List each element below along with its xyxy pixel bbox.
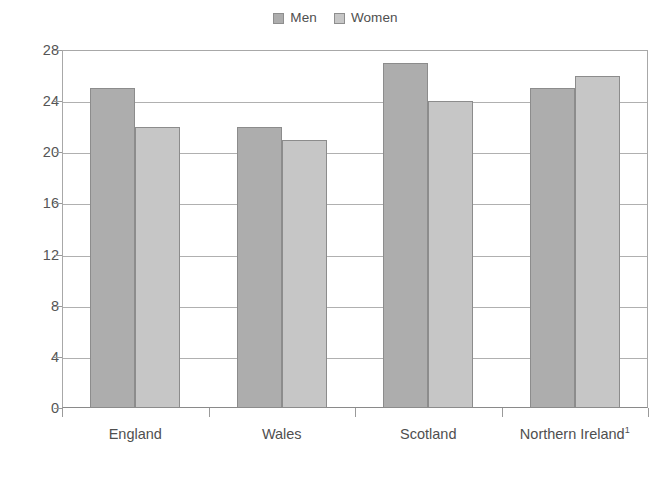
bar-men-scotland: [383, 63, 428, 408]
x-category-footnote-mark: 1: [625, 425, 630, 435]
x-category-label-england: England: [62, 427, 209, 442]
x-tick-mark-3: [502, 408, 503, 417]
y-tick-label-8: 8: [13, 298, 59, 313]
bar-women-england: [135, 127, 180, 408]
y-tick-mark-24: [54, 101, 62, 102]
bar-men-wales: [237, 127, 282, 408]
legend-label-men: Men: [290, 11, 317, 25]
bar-women-northern-ireland: [575, 76, 620, 408]
legend-swatch-men: [273, 13, 284, 24]
y-tick-label-12: 12: [13, 247, 59, 262]
y-tick-label-4: 4: [13, 350, 59, 365]
y-tick-mark-16: [54, 203, 62, 204]
x-category-label-scotland: Scotland: [355, 427, 502, 442]
x-tick-mark-1: [209, 408, 210, 417]
bar-women-wales: [282, 140, 327, 409]
y-tick-mark-28: [54, 50, 62, 51]
legend-label-women: Women: [351, 11, 398, 25]
legend-item-women: Women: [334, 11, 398, 25]
bar-women-scotland: [428, 101, 473, 408]
x-category-label-northern-ireland: Northern Ireland1: [502, 427, 649, 442]
x-tick-mark-2: [355, 408, 356, 417]
y-tick-mark-12: [54, 255, 62, 256]
y-tick-mark-0: [54, 408, 62, 409]
y-tick-label-24: 24: [13, 94, 59, 109]
bar-men-northern-ireland: [530, 88, 575, 408]
x-tick-mark-4: [648, 408, 649, 417]
y-tick-mark-20: [54, 152, 62, 153]
bar-men-england: [90, 88, 135, 408]
chart-legend: Men Women: [0, 7, 671, 29]
y-tick-mark-8: [54, 306, 62, 307]
y-tick-label-28: 28: [13, 43, 59, 58]
x-category-label-wales: Wales: [209, 427, 356, 442]
x-tick-mark-0: [62, 408, 63, 417]
bar-chart-figure: Men Women 0481216202428 EnglandWalesScot…: [0, 0, 671, 478]
y-tick-label-20: 20: [13, 145, 59, 160]
clipped-caption-strip: [0, 464, 671, 478]
y-tick-label-16: 16: [13, 196, 59, 211]
y-tick-mark-4: [54, 357, 62, 358]
legend-item-men: Men: [273, 11, 317, 25]
y-tick-label-0: 0: [13, 401, 59, 416]
legend-swatch-women: [334, 13, 345, 24]
bars-layer: [62, 50, 648, 408]
